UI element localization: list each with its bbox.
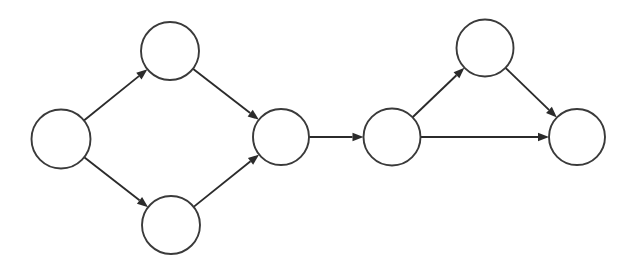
graph-node[interactable] xyxy=(142,196,200,254)
graph-edge xyxy=(84,157,139,200)
graph-node[interactable] xyxy=(32,110,91,169)
arrowhead-icon xyxy=(353,133,364,141)
graph-edge xyxy=(413,75,457,117)
graph-edge xyxy=(194,161,251,207)
diagram-canvas xyxy=(0,0,633,271)
arrowhead-icon xyxy=(538,133,549,141)
edge-layer xyxy=(84,68,557,207)
graph-node[interactable] xyxy=(253,109,309,165)
graph-edge xyxy=(84,76,139,120)
graph-node[interactable] xyxy=(549,109,605,165)
graph-node[interactable] xyxy=(364,109,421,166)
graph-svg xyxy=(0,0,633,271)
graph-edge xyxy=(505,68,548,110)
graph-node[interactable] xyxy=(141,22,199,80)
graph-node[interactable] xyxy=(457,20,514,77)
graph-edge xyxy=(193,69,250,113)
